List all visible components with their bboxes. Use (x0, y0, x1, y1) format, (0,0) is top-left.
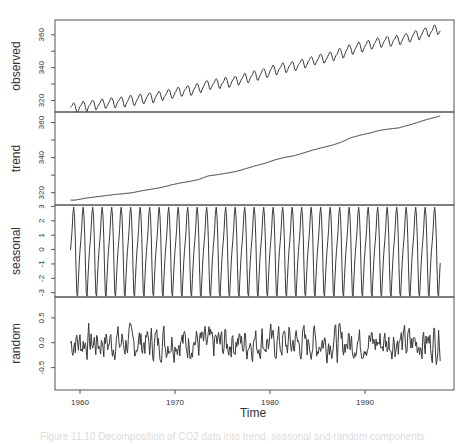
y-axis-label-trend: trend (9, 145, 23, 172)
x-axis-label: Time (240, 406, 267, 420)
y-tick-label: 340 (37, 150, 46, 164)
panel-frame (55, 112, 454, 205)
decomposition-figure: 320340360observed320340360trend-3-2-1012… (0, 0, 468, 444)
series-line-seasonal (71, 207, 441, 296)
y-tick-label: 340 (37, 60, 46, 74)
y-axis-seasonal: -3-2-10123 (37, 204, 55, 297)
y-axis-label-seasonal: seasonal (9, 227, 23, 275)
y-axis-label-observed: observed (9, 41, 23, 90)
x-tick-label: 1970 (166, 398, 184, 407)
y-tick-label: 3 (37, 204, 46, 209)
series-line-trend (71, 116, 441, 200)
y-tick-label: -3 (37, 289, 46, 297)
panel-random: -0.50.00.5random (9, 297, 454, 390)
panel-frame (55, 20, 454, 112)
panels: 320340360observed320340360trend-3-2-1012… (9, 20, 454, 390)
y-tick-label: -1 (37, 260, 46, 268)
x-axis: 1960197019801990 (71, 390, 374, 407)
y-tick-label: 320 (37, 93, 46, 107)
series-line-observed (71, 25, 441, 113)
series-line-random (71, 323, 441, 365)
figure-caption: Figure 11.10 Decomposition of CO2 data i… (40, 431, 460, 442)
x-tick-label: 1990 (356, 398, 374, 407)
y-axis-random: -0.50.00.5 (37, 312, 55, 375)
y-tick-label: 2 (37, 218, 46, 223)
y-axis-observed: 320340360 (37, 28, 55, 108)
y-tick-label: 0.5 (37, 312, 46, 324)
panel-seasonal: -3-2-10123seasonal (9, 204, 454, 297)
y-tick-label: 1 (37, 232, 46, 237)
y-tick-label: 320 (37, 185, 46, 199)
y-tick-label: -2 (37, 274, 46, 282)
y-tick-label: -0.5 (37, 360, 46, 374)
y-axis-trend: 320340360 (37, 115, 55, 199)
y-tick-label: 0 (37, 247, 46, 252)
y-tick-label: 360 (37, 28, 46, 42)
panel-trend: 320340360trend (9, 112, 454, 205)
panel-observed: 320340360observed (9, 20, 454, 112)
y-tick-label: 360 (37, 115, 46, 129)
y-tick-label: 0.0 (37, 337, 46, 349)
x-tick-label: 1960 (71, 398, 89, 407)
y-axis-label-random: random (9, 323, 23, 364)
